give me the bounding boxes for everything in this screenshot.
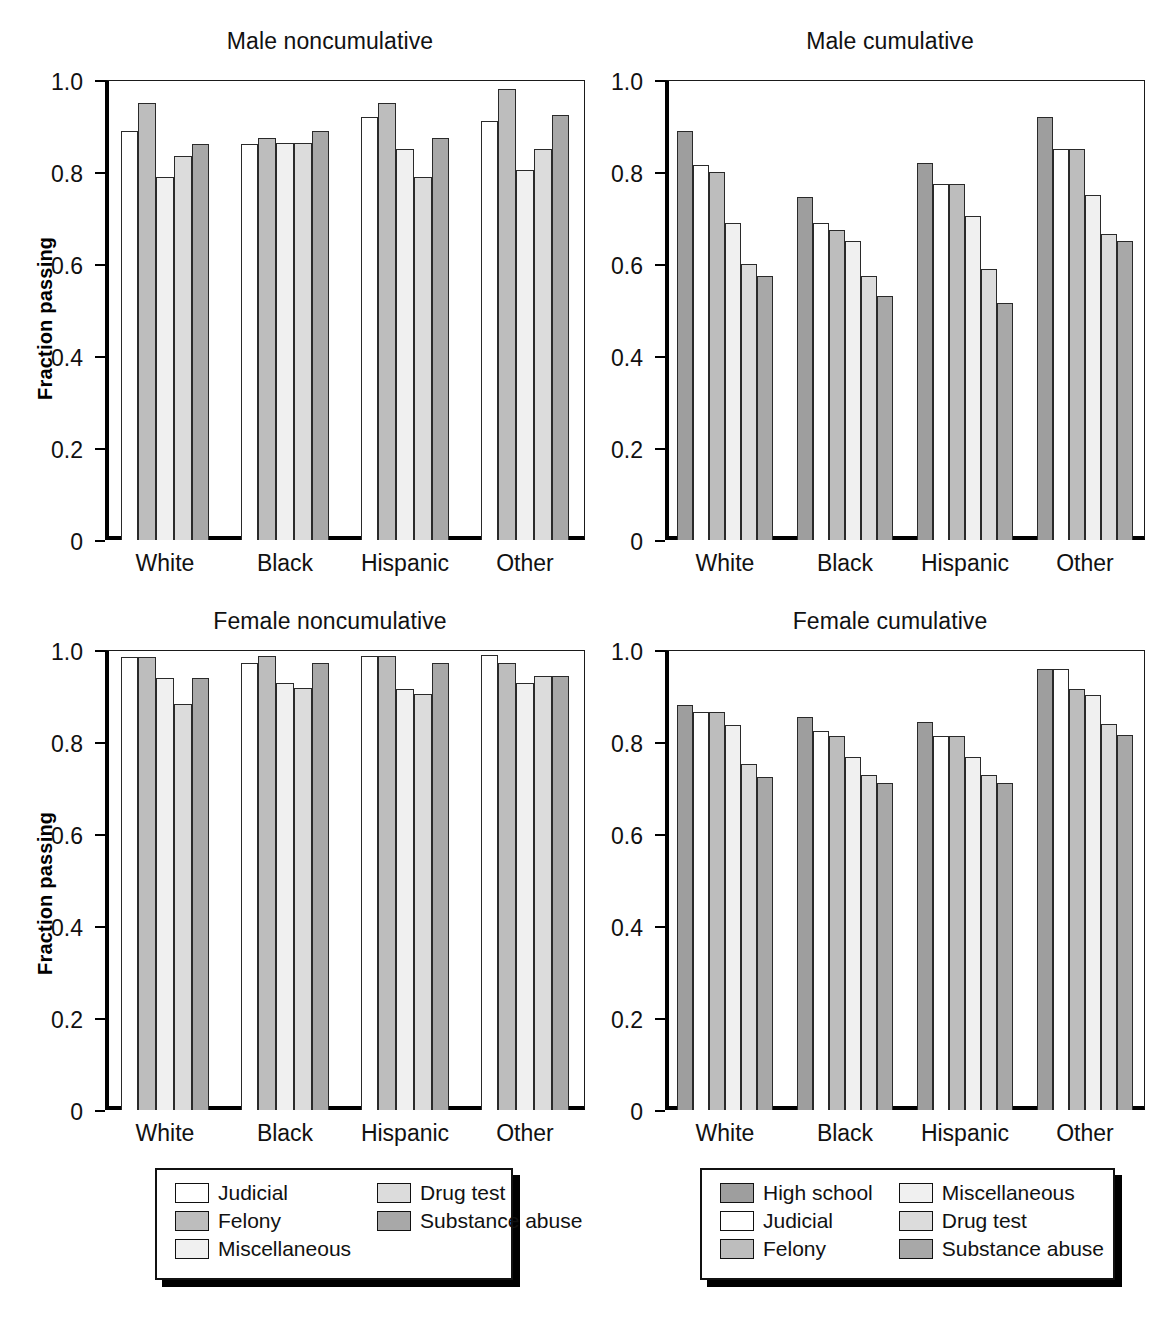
bar-group-inner	[1037, 650, 1133, 1110]
legend-label: Drug test	[942, 1210, 1027, 1232]
legend-item[interactable]: Drug test	[377, 1182, 582, 1204]
bar-group-inner	[917, 80, 1013, 540]
bar	[741, 764, 757, 1110]
panel-male-noncumulative: Male noncumulative 1.00.80.60.40.20 Whit…	[60, 28, 600, 608]
y-axis-tick: 1.0	[655, 650, 665, 652]
legend-item[interactable]: Miscellaneous	[899, 1182, 1104, 1204]
bar	[1085, 695, 1101, 1110]
legend-item[interactable]: Judicial	[720, 1210, 873, 1232]
bar	[174, 704, 192, 1110]
legend-swatch-icon	[899, 1211, 933, 1231]
x-axis-tick-label: White	[665, 1120, 785, 1147]
bar-group	[225, 650, 345, 1110]
plot-area: 1.00.80.60.40.20	[105, 650, 585, 1110]
x-axis-tick-label: White	[105, 1120, 225, 1147]
legend-item[interactable]: Felony	[175, 1210, 351, 1232]
bar-group	[905, 80, 1025, 540]
y-axis-tick: 0.4	[655, 356, 665, 358]
bar	[709, 172, 725, 540]
y-axis-tick-label: 0.4	[51, 915, 83, 942]
bar	[174, 156, 192, 540]
panel-female-cumulative: Female cumulative 1.00.80.60.40.20 White…	[620, 608, 1160, 1188]
legend-item[interactable]: Substance abuse	[377, 1210, 582, 1232]
y-axis-tick-label: 0.4	[51, 345, 83, 372]
legend-item[interactable]: High school	[720, 1182, 873, 1204]
bar	[241, 144, 259, 540]
bar	[432, 663, 450, 1110]
bar-group-inner	[241, 650, 330, 1110]
y-axis-tick-label: 0.8	[51, 731, 83, 758]
bar	[797, 197, 813, 540]
bar-group	[785, 80, 905, 540]
x-axis-tick-label: Black	[225, 1120, 345, 1147]
legend-item[interactable]: Felony	[720, 1238, 873, 1260]
bar	[757, 276, 773, 541]
y-axis-tick-label: 0.2	[611, 437, 643, 464]
legend-label: Judicial	[763, 1210, 833, 1232]
y-axis-tick-label: 0.6	[611, 253, 643, 280]
y-axis-tick: 0.6	[95, 834, 105, 836]
bars-container	[665, 80, 1145, 540]
y-axis-tick-label: 0.2	[51, 1007, 83, 1034]
bar	[997, 783, 1013, 1110]
bar	[516, 683, 534, 1110]
bar	[1101, 724, 1117, 1110]
y-axis-tick-label: 1.0	[51, 639, 83, 666]
legend-swatch-icon	[899, 1239, 933, 1259]
bar	[677, 705, 693, 1110]
panel-title: Male noncumulative	[60, 28, 600, 55]
bar	[414, 177, 432, 540]
x-axis-tick-label: Other	[465, 1120, 585, 1147]
y-axis-tick-label: 0.6	[51, 253, 83, 280]
y-axis-tick-label: 0	[70, 529, 83, 556]
y-axis-tick-label: 0.4	[611, 915, 643, 942]
bar	[1037, 117, 1053, 540]
y-axis-tick: 0.6	[95, 264, 105, 266]
x-axis-tick-label: White	[105, 550, 225, 577]
bar	[981, 775, 997, 1110]
bar	[498, 89, 516, 540]
bar	[534, 149, 552, 540]
bar	[877, 783, 893, 1110]
bar	[258, 138, 276, 541]
bar	[432, 138, 450, 541]
bar-group-inner	[677, 80, 773, 540]
bar	[156, 678, 174, 1110]
y-axis-tick-label: 0.4	[611, 345, 643, 372]
bar	[997, 303, 1013, 540]
legend-swatch-icon	[720, 1239, 754, 1259]
panel-male-cumulative: Male cumulative 1.00.80.60.40.20 WhiteBl…	[620, 28, 1160, 608]
x-axis-tick-label: Other	[465, 550, 585, 577]
bar-group-inner	[917, 650, 1013, 1110]
bar	[138, 657, 156, 1110]
bar	[845, 757, 861, 1110]
x-axis-tick-label: Black	[785, 1120, 905, 1147]
legend-item[interactable]: Judicial	[175, 1182, 351, 1204]
bar	[917, 722, 933, 1110]
bar	[949, 184, 965, 541]
plot-area: 1.00.80.60.40.20	[665, 650, 1145, 1110]
bar	[1053, 669, 1069, 1110]
panel-title: Male cumulative	[620, 28, 1160, 55]
panel-female-noncumulative: Female noncumulative 1.00.80.60.40.20 Wh…	[60, 608, 600, 1188]
bar	[378, 103, 396, 540]
y-axis-tick: 1.0	[95, 80, 105, 82]
legend-item[interactable]: Substance abuse	[899, 1238, 1104, 1260]
bar-group	[1025, 80, 1145, 540]
bar	[361, 656, 379, 1110]
bar	[156, 177, 174, 540]
bar	[797, 717, 813, 1110]
y-axis-tick-label: 0.8	[611, 731, 643, 758]
bars-container	[665, 650, 1145, 1110]
bar	[741, 264, 757, 540]
bar	[241, 663, 259, 1110]
bar	[845, 241, 861, 540]
legend-item[interactable]: Miscellaneous	[175, 1238, 351, 1260]
bar-group	[345, 650, 465, 1110]
bars-container	[105, 80, 585, 540]
bar	[312, 663, 330, 1110]
legend-item[interactable]: Drug test	[899, 1210, 1104, 1232]
bar	[693, 712, 709, 1110]
y-axis-tick: 0.4	[95, 926, 105, 928]
bar	[378, 656, 396, 1110]
